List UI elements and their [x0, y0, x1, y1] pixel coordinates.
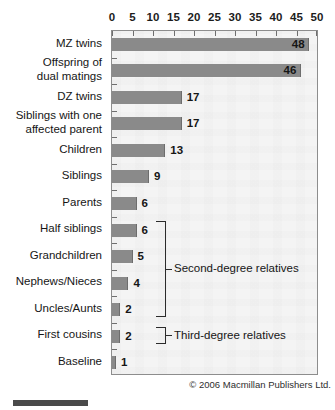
group-bracket-stem: [166, 335, 172, 336]
group-bracket-stem: [166, 269, 172, 270]
group-annotation-label: Third-degree relatives: [174, 329, 286, 342]
group-annotations-layer: Second-degree relativesThird-degree rela…: [0, 0, 335, 410]
group-annotation-label: Second-degree relatives: [174, 262, 299, 275]
footer-rule: [13, 400, 88, 406]
group-bracket: [156, 221, 166, 318]
bar-chart-figure: 05101520253035404550 MZ twinsOffspring o…: [0, 0, 335, 410]
group-bracket: [156, 327, 166, 344]
copyright-notice: © 2006 Macmillan Publishers Ltd.: [189, 379, 331, 390]
